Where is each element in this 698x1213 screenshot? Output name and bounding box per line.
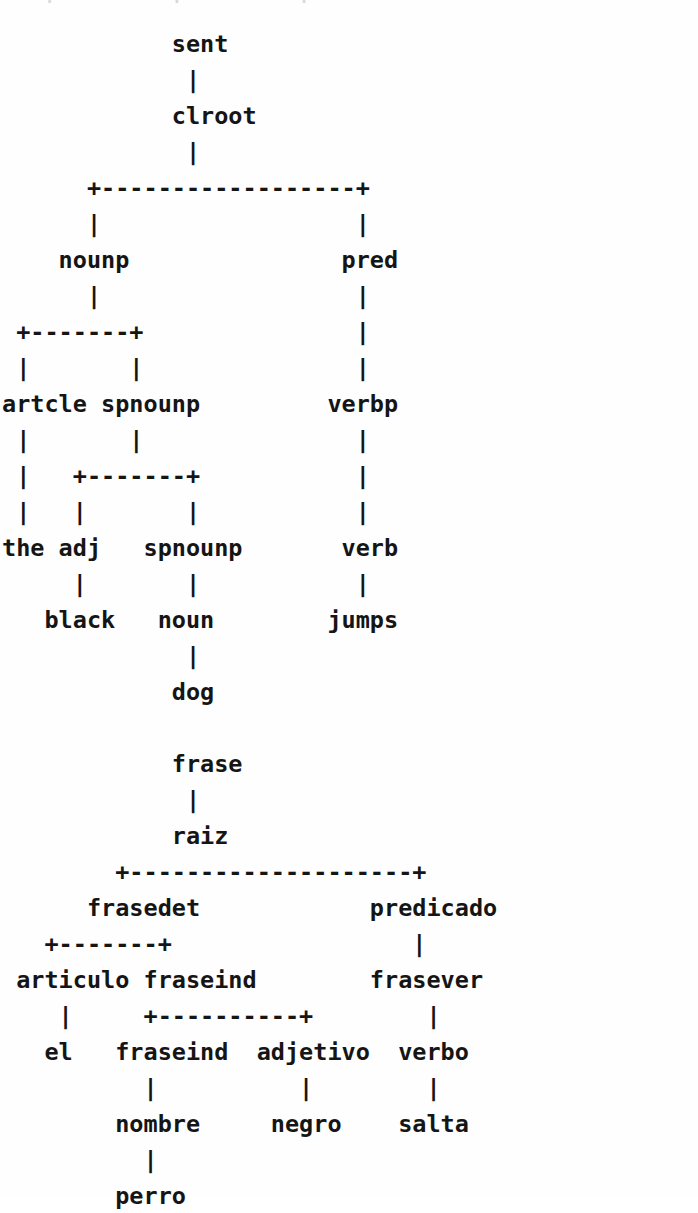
spanish-parse-tree-block: frase | raiz +--------------------+ fras… [2, 746, 698, 1213]
english-parse-tree-block: sent | clroot | +------------------+ | |… [2, 26, 698, 710]
clipped-text-remnant: | | | [0, 0, 698, 3]
english-parse-tree-ascii: sent | clroot | +------------------+ | |… [2, 26, 698, 710]
spanish-parse-tree-ascii: frase | raiz +--------------------+ fras… [2, 746, 698, 1213]
